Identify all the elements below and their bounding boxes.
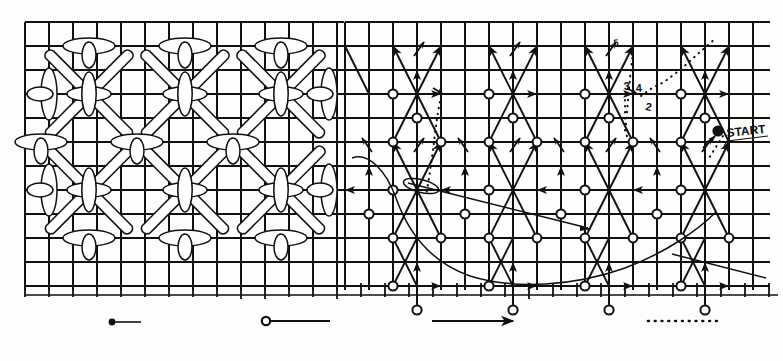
step-number: 3 xyxy=(623,80,630,92)
legend: START NEEDLE COMES OUT NEEDLE GOES IN DI… xyxy=(0,300,783,361)
